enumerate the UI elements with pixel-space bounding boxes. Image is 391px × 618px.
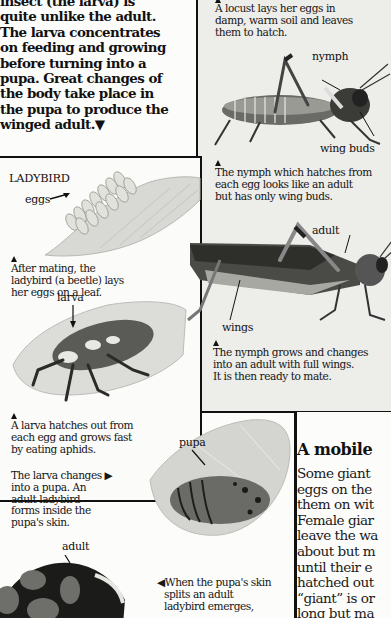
wings-label: wings	[222, 321, 253, 334]
eggs-label: eggs	[25, 193, 50, 206]
nymph-label: nymph	[312, 50, 348, 63]
arrow-icon	[50, 192, 72, 202]
locust-adult-illustration	[160, 225, 391, 335]
ladybird-larva-illustration	[8, 295, 188, 405]
larva-label: larva	[57, 291, 84, 304]
mobile-section-body: Some giant eggs on the them on wit Femal…	[297, 466, 378, 618]
ladybird-larva-caption: A larva hatches out from each egg and gr…	[11, 413, 133, 455]
adult-locust-label: adult	[312, 224, 339, 237]
locust-nymph-caption: The nymph which hatches from each egg lo…	[215, 160, 372, 202]
pupa-label: pupa	[179, 436, 206, 449]
adult-ladybird-label: adult	[62, 540, 89, 553]
intro-paragraph: insect (the larva) is quite unlike the a…	[0, 0, 195, 133]
locust-adult-caption: The nymph grows and changes into an adul…	[213, 340, 368, 382]
ladybird-pupa-illustration	[150, 420, 295, 540]
wing-buds-label: wing buds	[320, 142, 375, 155]
locust-nymph-illustration	[210, 50, 390, 150]
locust-eggs-caption: A locust lays her eggs in damp, warm soi…	[215, 0, 353, 38]
mobile-section-title: A mobile	[297, 440, 372, 459]
ladybird-adult-illustration	[0, 555, 135, 618]
ladybird-adult-caption: ◀When the pupa's skin splits an adult la…	[157, 577, 271, 612]
ladybird-pupa-caption: The larva changes ▶ into a pupa. An adul…	[11, 470, 112, 529]
